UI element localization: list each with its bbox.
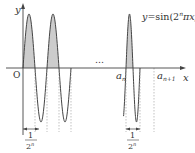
period-bracket-left: 1 2n	[23, 128, 39, 152]
svg-text:2n: 2n	[26, 141, 34, 151]
svg-text:1: 1	[28, 131, 33, 140]
a-n-label: an	[116, 70, 126, 82]
function-label: y=sin(2nπx)	[141, 10, 195, 22]
x-axis-arrow	[180, 66, 186, 70]
y-axis-arrow	[21, 3, 25, 9]
sine-diagram: y x O … y=sin(2nπx) an an+1 1 2n 1 2n	[0, 0, 195, 153]
ellipsis: …	[95, 55, 104, 65]
a-n-plus-1-label: an+1	[157, 70, 176, 82]
svg-text:1: 1	[130, 131, 135, 140]
svg-text:2n: 2n	[128, 141, 136, 151]
origin-label: O	[13, 70, 20, 80]
y-axis-label: y	[14, 4, 21, 15]
period-bracket-right: 1 2n	[126, 128, 140, 152]
x-axis-label: x	[183, 72, 189, 83]
